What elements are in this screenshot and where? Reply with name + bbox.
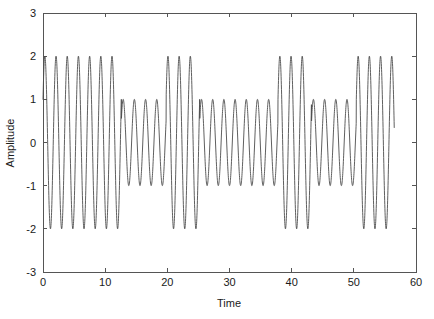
y-tick-label: 0 [30,137,36,149]
x-tick-label: 40 [286,276,298,288]
y-tick-label: 1 [30,93,36,105]
figure-container: 0102030405060 -3-2-10123 Time Amplitude [0,0,434,319]
x-tick-label: 20 [161,276,173,288]
x-tick-label: 30 [223,276,235,288]
y-tick-label: 3 [30,7,36,19]
x-tick-label: 60 [410,276,422,288]
y-tick-label: 2 [30,50,36,62]
chart-background [0,0,434,319]
x-tick-label: 50 [348,276,360,288]
y-axis-title: Amplitude [4,119,16,168]
x-axis-title: Time [217,297,241,309]
x-tick-label: 0 [40,276,46,288]
y-tick-label: -1 [26,180,36,192]
x-tick-label: 10 [99,276,111,288]
y-tick-label: -3 [26,266,36,278]
y-tick-label: -2 [26,223,36,235]
line-chart: 0102030405060 -3-2-10123 Time Amplitude [0,0,434,319]
